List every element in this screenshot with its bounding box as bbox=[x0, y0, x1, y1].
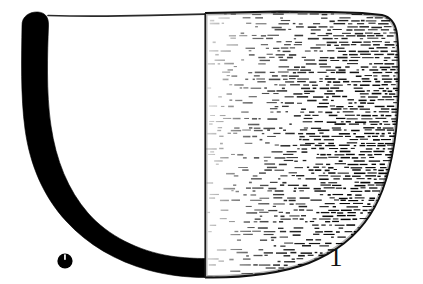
vessel-profile-illustration bbox=[0, 0, 423, 284]
catalog-number-label: 1 bbox=[329, 244, 343, 271]
figure-root: 1 bbox=[0, 0, 423, 284]
scale-dot-marker bbox=[57, 253, 72, 268]
